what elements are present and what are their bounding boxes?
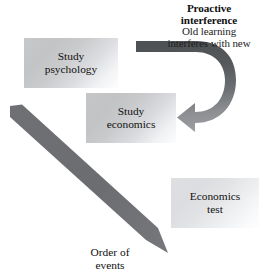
event-box-study-economics: Study economics — [86, 93, 176, 143]
event-box-label: Study psychology — [45, 50, 98, 76]
heading-subtitle-line2: interferes with new — [148, 38, 270, 50]
event-box-label: Economics test — [190, 190, 241, 216]
event-box-economics-test: Economics test — [171, 178, 259, 228]
event-box-study-psychology: Study psychology — [24, 38, 118, 88]
event-box-label: Study economics — [107, 105, 156, 131]
heading-block: Proactive interference Old learning inte… — [148, 2, 270, 50]
order-of-events-caption: Order of events — [62, 246, 158, 272]
caption-line-2: events — [62, 259, 158, 272]
caption-line-1: Order of — [62, 246, 158, 259]
heading-title-line1: Proactive — [148, 2, 270, 14]
diagram-canvas: Proactive interference Old learning inte… — [0, 0, 272, 278]
